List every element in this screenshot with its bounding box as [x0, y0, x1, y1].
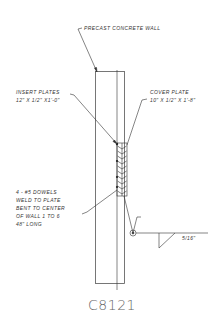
wall-leader	[78, 28, 97, 72]
dowels-line1: 4 - #5 DOWELS	[16, 189, 57, 196]
detail-code: C8121	[0, 297, 224, 313]
weld-size-label: 5/16"	[182, 235, 196, 242]
dowels-line5: 48" LONG	[16, 221, 42, 228]
detail-drawing	[0, 0, 224, 336]
wall-label: PRECAST CONCRETE WALL	[84, 25, 160, 32]
insert-plates-leader	[70, 94, 117, 144]
plate-assembly	[117, 70, 127, 290]
insert-plates-dims: 12" X 1/2" X1'-0"	[16, 97, 60, 104]
cover-plate-leader	[127, 99, 147, 145]
cover-plate-dims: 10" X 1/2" X 1'-8"	[150, 97, 195, 104]
dowels-line2: WELD TO PLATE	[16, 197, 61, 204]
dowels-line4: OF WALL 1 TO 6	[16, 213, 60, 220]
dowels-leader	[82, 190, 117, 214]
dowels-line3: BENT TO CENTER	[16, 205, 65, 212]
insert-plates-title: INSERT PLATES	[16, 89, 60, 96]
cover-plate-title: COVER PLATE	[150, 89, 189, 96]
